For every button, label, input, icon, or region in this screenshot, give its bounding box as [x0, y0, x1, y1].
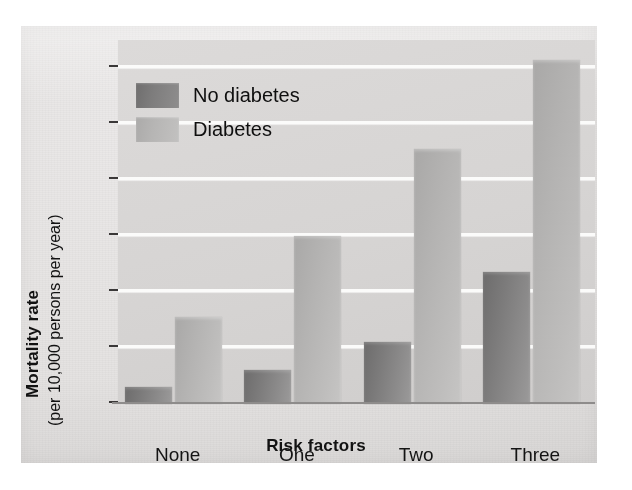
- legend: No diabetes Diabetes: [136, 78, 300, 146]
- y-tick-mark: [109, 345, 118, 347]
- legend-swatch-diabetes: [136, 117, 179, 142]
- bar-diabetes: [175, 317, 222, 404]
- x-tick-label: None: [113, 444, 243, 466]
- bar-group: [364, 40, 461, 404]
- bar-diabetes: [294, 236, 341, 404]
- x-tick-label: Three: [470, 444, 600, 466]
- bar-group: [483, 40, 580, 404]
- y-tick-mark: [109, 121, 118, 123]
- legend-label-diabetes: Diabetes: [193, 118, 272, 141]
- bar-diabetes: [414, 149, 461, 404]
- y-axis-title-group: Mortality rate (per 10,000 persons per y…: [6, 26, 66, 463]
- x-tick-label: One: [232, 444, 362, 466]
- y-axis-title-sub: (per 10,000 persons per year): [47, 214, 63, 426]
- figure-bar-chart: Mortality rate (per 10,000 persons per y…: [0, 0, 632, 490]
- y-tick-mark: [109, 289, 118, 291]
- legend-swatch-no-diabetes: [136, 83, 179, 108]
- legend-item-no-diabetes: No diabetes: [136, 78, 300, 112]
- y-axis-title-main: Mortality rate: [24, 290, 41, 398]
- bar-diabetes: [533, 60, 580, 404]
- x-axis-line: [112, 402, 595, 404]
- bar-no-diabetes: [364, 342, 411, 404]
- bar-no-diabetes: [483, 272, 530, 404]
- y-tick-mark: [109, 233, 118, 235]
- y-tick-mark: [109, 177, 118, 179]
- bar-no-diabetes: [244, 370, 291, 404]
- plot-area: 020406080100120 NoneOneTwoThree No diabe…: [118, 40, 595, 404]
- legend-item-diabetes: Diabetes: [136, 112, 300, 146]
- y-tick-mark: [109, 65, 118, 67]
- x-tick-label: Two: [351, 444, 481, 466]
- legend-label-no-diabetes: No diabetes: [193, 84, 300, 107]
